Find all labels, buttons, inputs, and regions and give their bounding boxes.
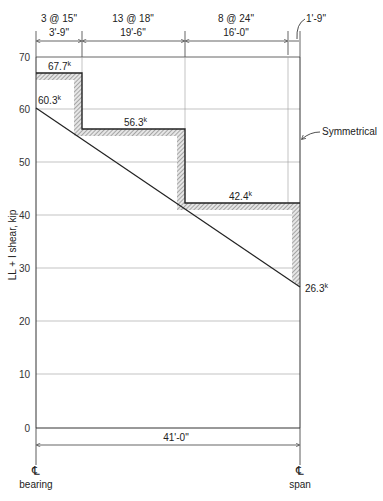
spacing-length-3: 16'-0" [223, 27, 249, 38]
hatched-capacity-band [36, 73, 300, 287]
symmetrical-annotation: Symmetrical [302, 126, 377, 139]
span-label: span [289, 479, 311, 490]
svg-text:10: 10 [19, 369, 31, 380]
label-67-7: 67.7k [48, 60, 71, 72]
spacing-label-1: 3 @ 15" [41, 13, 77, 24]
spacing-length-2: 19'-6" [120, 27, 146, 38]
y-axis-label: LL + I shear, kip [7, 209, 18, 280]
label-26-3: 26.3k [305, 282, 328, 294]
svg-text:Symmetrical: Symmetrical [322, 126, 377, 137]
svg-text:0: 0 [24, 423, 30, 434]
label-42-4: 42.4k [229, 190, 252, 202]
leader-line [297, 19, 305, 39]
total-length-dimension: 41'-0" [36, 428, 300, 465]
svg-text:40: 40 [19, 210, 31, 221]
bearing-label: bearing [19, 479, 52, 490]
total-length-label: 41'-0" [163, 432, 189, 443]
spacing-label-3: 8 @ 24" [218, 13, 254, 24]
label-60-3: 60.3k [38, 94, 61, 106]
svg-text:50: 50 [19, 157, 31, 168]
spacing-label-2: 13 @ 18" [112, 13, 154, 24]
spacing-length-1: 3'-9" [49, 27, 69, 38]
spacing-dimensions: 3 @ 15" 13 @ 18" 8 @ 24" 1'-9" 3'-9" 19'… [36, 13, 326, 57]
svg-text:70: 70 [19, 52, 31, 63]
svg-text:60: 60 [19, 104, 31, 115]
centerline-bearing-icon: ℄ [31, 464, 40, 478]
centerline-span-icon: ℄ [295, 464, 304, 478]
centerline-labels: ℄ bearing ℄ span [19, 464, 311, 490]
svg-text:30: 30 [19, 263, 31, 274]
shear-diagram: 3 @ 15" 13 @ 18" 8 @ 24" 1'-9" 3'-9" 19'… [0, 0, 383, 501]
spacing-length-4: 1'-9" [306, 13, 326, 24]
svg-text:20: 20 [19, 316, 31, 327]
y-axis-ticks: 70 60 50 40 30 20 10 0 [19, 52, 31, 434]
label-56-3: 56.3k [124, 116, 147, 128]
